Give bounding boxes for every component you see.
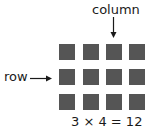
array-grid xyxy=(59,44,145,110)
grid-square xyxy=(59,94,75,110)
right-arrow-icon xyxy=(30,74,54,83)
grid-square xyxy=(129,69,145,85)
grid-square xyxy=(83,44,99,60)
grid-square xyxy=(83,94,99,110)
grid-square xyxy=(106,69,122,85)
grid-square xyxy=(59,69,75,85)
grid-square xyxy=(129,44,145,60)
column-label: column xyxy=(92,3,140,16)
grid-square xyxy=(106,94,122,110)
grid-square xyxy=(59,44,75,60)
grid-square xyxy=(106,44,122,60)
grid-square xyxy=(129,94,145,110)
down-arrow-icon xyxy=(109,17,118,39)
grid-square xyxy=(83,69,99,85)
row-label: row xyxy=(4,70,28,83)
equation: 3 × 4 = 12 xyxy=(71,115,142,128)
